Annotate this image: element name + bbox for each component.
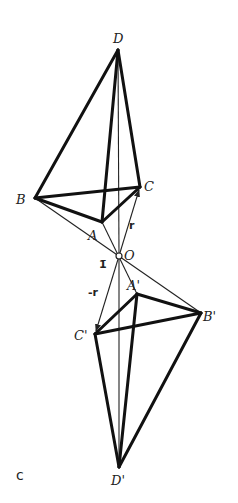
label-b: B [15, 192, 26, 207]
axis-line-upper [118, 50, 119, 256]
tetrahedron-abcd-prime [95, 294, 201, 467]
label-a-prime: A' [126, 278, 140, 293]
edge-cd [118, 50, 140, 187]
label-minus-r: -r [88, 286, 99, 299]
label-inversion-symbol: 1̄ [99, 258, 107, 271]
label-c: C [144, 179, 154, 194]
tetrahedron-abcd [35, 50, 140, 222]
edge-c2d2 [95, 334, 119, 467]
inversion-diagram: D B C A O r 1̄ -r A' B' C' D' c [0, 0, 238, 503]
edge-c2b2 [95, 313, 201, 334]
inversion-center-icon [116, 253, 122, 259]
edge-ba [35, 198, 102, 222]
label-a: A [87, 228, 97, 243]
panel-label: c [16, 467, 24, 483]
edge-a2b2 [137, 294, 201, 313]
label-o: O [124, 248, 135, 263]
label-r: r [129, 219, 135, 232]
edge-bc [35, 187, 140, 198]
label-d: D [112, 31, 124, 46]
label-d-prime: D' [110, 473, 125, 488]
label-c-prime: C' [74, 328, 88, 343]
label-b-prime: B' [202, 309, 216, 324]
